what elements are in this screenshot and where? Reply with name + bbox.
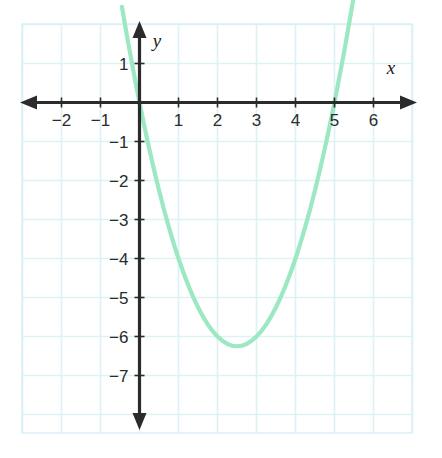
y-tick-label: −4	[109, 250, 128, 269]
x-tick-label: 6	[369, 111, 378, 130]
x-tick-label: 5	[330, 111, 339, 130]
x-tick-label: 1	[174, 111, 183, 130]
x-tick-label: −2	[52, 111, 71, 130]
x-tick-label: 4	[291, 111, 300, 130]
y-tick-label: −7	[109, 367, 128, 386]
y-axis-label: y	[151, 30, 162, 51]
x-axis-label: x	[386, 57, 396, 78]
coordinate-plane-graph: −2−1123456 1−1−2−3−4−5−6−7 x y	[0, 0, 442, 458]
graph-figure: −2−1123456 1−1−2−3−4−5−6−7 x y	[0, 0, 442, 458]
x-tick-label: 2	[213, 111, 222, 130]
x-tick-label: 3	[252, 111, 261, 130]
y-tick-label: −6	[109, 328, 128, 347]
y-tick-label: −2	[109, 172, 128, 191]
y-tick-label: −1	[109, 133, 128, 152]
y-tick-label: −3	[109, 211, 128, 230]
x-tick-label: −1	[91, 111, 110, 130]
y-tick-label: −5	[109, 289, 128, 308]
y-tick-label: 1	[119, 55, 128, 74]
x-axis-tick-labels: −2−1123456	[52, 111, 378, 130]
plot-background	[0, 0, 442, 458]
